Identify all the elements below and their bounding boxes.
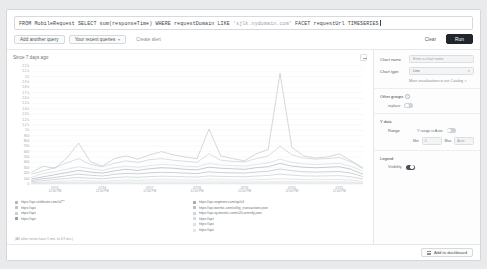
y-axis-tick-label: 1.8 k: [22, 86, 29, 90]
x-axis-tick-label: 12:00 PM: [285, 189, 299, 193]
legend-item-label: https://api/: [21, 211, 37, 215]
legend-item[interactable]: https://api/: [15, 217, 189, 221]
y-axis-tick-label: 900: [24, 134, 30, 138]
clear-label: Clear: [425, 37, 436, 42]
y-axis-tick-label: 400: [24, 161, 30, 165]
info-icon[interactable]: i: [405, 94, 410, 99]
chart-time-range: Since 7 days ago: [13, 55, 48, 60]
y-axis-tick-label: 300: [24, 166, 30, 170]
replace-label: replace: [388, 104, 400, 108]
run-button[interactable]: Run: [446, 34, 473, 44]
min-label: Min: [413, 139, 419, 143]
expand-icon[interactable]: [360, 54, 367, 61]
legend-color-swatch: [193, 229, 196, 232]
chart-series-line: [31, 159, 363, 177]
y-axis-tick-label: 1 k: [25, 128, 30, 132]
min-input[interactable]: 0: [422, 137, 442, 145]
chevron-down-icon: ▾: [118, 37, 120, 42]
legend-item-label: https://api.celebrate.com/v2**: [21, 200, 65, 204]
add-another-query-button[interactable]: Add another query: [14, 35, 65, 44]
legend-visibility-toggle[interactable]: [406, 165, 415, 170]
query-zone: FROM MobileRequest SELECT sum(responseTi…: [7, 10, 480, 30]
other-groups-title-label: Other groups: [380, 94, 403, 99]
y-axis-tick-label: 0: [27, 182, 29, 186]
y-axis-tick-label: 2.1 k: [22, 69, 29, 73]
legend-item-label: https://api.twentic.com/utility_transact…: [199, 206, 269, 210]
catalog-link[interactable]: More visualizations in our Catalog ↗: [380, 79, 474, 83]
clear-button[interactable]: Clear: [419, 35, 442, 44]
legend-item[interactable]: https://api.celebrate.com/v2**: [15, 200, 189, 204]
nrql-query-builder: FROM MobileRequest SELECT sum(responseTi…: [6, 9, 481, 261]
y-axis-tick-label: 200: [24, 171, 30, 175]
legend-item[interactable]: https://api/: [15, 211, 189, 215]
legend-color-swatch: [15, 212, 18, 215]
range-label: Range: [380, 128, 413, 133]
y-axis-tick-label: 700: [24, 145, 30, 149]
y-axis-tick-label: 1.2 k: [22, 118, 29, 122]
chart-type-select[interactable]: Line ▾: [409, 67, 474, 75]
legend-item-label: https://api/: [199, 228, 215, 232]
builder-body: Since 7 days ago 2.2 k2.1 k2 k1.9 k1.8 k…: [7, 49, 480, 244]
y-axis-tick-label: 1.4 k: [22, 107, 29, 111]
nrql-after: FACET requestUrl TIMESERIES: [292, 21, 379, 27]
chart-series-line: [31, 73, 363, 172]
x-axis-tick-label: 12:00 PM: [48, 189, 62, 193]
replace-toggle[interactable]: [404, 103, 413, 108]
legend-visibility-row: Visibility: [380, 165, 474, 170]
y-range-auto-label: Y range is Auto: [417, 129, 443, 133]
legend-title: Legend: [380, 156, 474, 161]
legend-item[interactable]: https://api/: [193, 228, 367, 232]
legend-item-label: https://api.ay.twentic.com/v2/currently.…: [199, 211, 262, 215]
recent-queries-label: Your recent queries: [75, 37, 116, 42]
y-axis-tick-label: 1.1 k: [22, 123, 29, 127]
y-axis-tick-label: 100: [24, 177, 30, 181]
legend-item[interactable]: https://api/: [193, 222, 367, 226]
y-range-auto-toggle[interactable]: [447, 128, 456, 133]
chart-plot-area[interactable]: 2.2 k2.1 k2 k1.9 k1.8 k1.7 k1.6 k1.5 k1.…: [7, 63, 373, 197]
x-axis-tick-label: 12:00 PM: [96, 189, 110, 193]
y-axis-tick-label: 1.7 k: [22, 91, 29, 95]
nrql-string: 'sjlk.nydomain.com': [233, 21, 292, 27]
legend-color-swatch: [15, 201, 18, 204]
add-to-dashboard-button[interactable]: Add to dashboard: [421, 248, 473, 257]
legend-item[interactable]: https://api.segment.com/api/v1: [193, 200, 367, 204]
catalog-link-label: More visualizations in our Catalog: [409, 79, 463, 83]
legend-color-swatch: [193, 212, 196, 215]
chart-type-label: Chart type: [380, 69, 405, 74]
legend-note: (All other series have 1 min. to 4.9 sec…: [7, 236, 373, 244]
recent-queries-button[interactable]: Your recent queries ▾: [69, 35, 127, 44]
legend-color-swatch: [193, 223, 196, 226]
y-axis-tick-label: 600: [24, 150, 30, 154]
legend-item[interactable]: https://api.ay.twentic.com/v2/currently.…: [193, 211, 367, 215]
y-axis-tick-label: 1.9 k: [22, 80, 29, 84]
y-axis-tick-label: 500: [24, 155, 30, 159]
legend-color-swatch: [193, 206, 196, 209]
y-min-max-row: Min 0 Max Auto: [380, 137, 474, 145]
y-range-auto-row: Y range is Auto: [417, 128, 456, 133]
legend-color-swatch: [15, 206, 18, 209]
chart-name-input[interactable]: Enter a chart name: [409, 55, 474, 63]
legend-color-swatch: [193, 201, 196, 204]
legend-item[interactable]: https://api/: [15, 206, 189, 210]
chart-name-row: Chart name Enter a chart name: [380, 55, 474, 63]
legend-item[interactable]: https://api.twentic.com/utility_transact…: [193, 206, 367, 210]
chart-type-row: Chart type Line ▾: [380, 67, 474, 75]
y-axis-tick-label: 2.2 k: [22, 64, 29, 68]
y-axis-tick-label: 1.6 k: [22, 96, 29, 100]
max-input[interactable]: Auto: [454, 137, 474, 145]
y-range-row: Range Y range is Auto: [380, 128, 474, 133]
legend-item-label: https://api/: [199, 217, 215, 221]
create-alert-button[interactable]: Create alert: [130, 35, 167, 44]
legend-title-label: Legend: [380, 156, 393, 161]
legend-item-label: https://api/: [199, 222, 215, 226]
legend-column-mid: https://api.segment.com/api/v1https://ap…: [193, 200, 367, 232]
chart-basics-section: Chart name Enter a chart name Chart type…: [374, 50, 480, 89]
text-caret: [380, 20, 381, 26]
legend-item[interactable]: https://api/: [193, 217, 367, 221]
grid-icon: [427, 251, 431, 255]
nrql-query-input[interactable]: FROM MobileRequest SELECT sum(responseTi…: [14, 16, 473, 30]
timeseries-line-chart: 2.2 k2.1 k2 k1.9 k1.8 k1.7 k1.6 k1.5 k1.…: [11, 63, 367, 197]
chart-pane: Since 7 days ago 2.2 k2.1 k2 k1.9 k1.8 k…: [7, 50, 374, 244]
y-axis-tick-label: 1.3 k: [22, 112, 29, 116]
replace-row: replace: [380, 103, 474, 108]
